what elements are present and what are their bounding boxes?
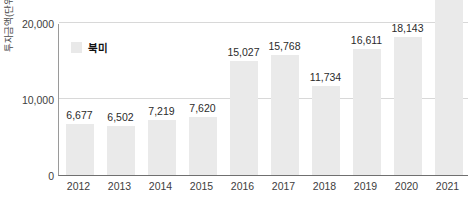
bar[interactable] — [230, 61, 258, 175]
bar[interactable] — [148, 120, 176, 175]
bar-group: 15,027 — [223, 24, 264, 175]
bar[interactable] — [435, 0, 463, 175]
bar[interactable] — [66, 124, 94, 175]
bar-value-label: 6,677 — [66, 110, 92, 121]
bar-group: 7,219 — [141, 24, 182, 175]
bar[interactable] — [189, 117, 217, 175]
bar-value-label: 16,611 — [351, 35, 382, 46]
bar[interactable] — [107, 126, 135, 175]
bar-group: 16,611 — [346, 24, 387, 175]
plot-area: 북미 6,6776,5027,2197,62015,02715,76811,73… — [58, 24, 468, 176]
bar[interactable] — [394, 37, 422, 175]
bar-group: 6,502 — [100, 24, 141, 175]
x-axis-tick-label: 2014 — [149, 180, 172, 192]
y-axis-ticks: 010,00020,000 — [4, 0, 54, 201]
bar-chart: 투자금액(단위 : 백만원) 010,00020,000 북미 6,6776,5… — [0, 0, 475, 201]
x-axis-tick-label: 2019 — [354, 180, 377, 192]
bar-group: 23,3 — [428, 24, 469, 175]
bar-value-label: 6,502 — [107, 112, 133, 123]
bar-group: 18,143 — [387, 24, 428, 175]
y-axis-tick-label: 0 — [8, 171, 54, 181]
bar-value-label: 15,768 — [268, 41, 300, 52]
bar[interactable] — [271, 55, 299, 175]
bar-value-label: 7,219 — [148, 106, 174, 117]
x-axis-tick-label: 2020 — [395, 180, 418, 192]
x-axis-tick-label: 2013 — [108, 180, 131, 192]
x-axis-tick-label: 2016 — [231, 180, 254, 192]
y-axis-tick-label: 10,000 — [8, 95, 54, 105]
x-axis-tick-label: 2021 — [436, 180, 459, 192]
bar-group: 6,677 — [59, 24, 100, 175]
bar-group: 11,734 — [305, 24, 346, 175]
x-axis-tick-label: 2017 — [272, 180, 295, 192]
x-axis-ticks: 2012201320142015201620172018201920202021 — [58, 180, 468, 196]
bar[interactable] — [312, 86, 340, 175]
x-axis-tick-label: 2018 — [313, 180, 336, 192]
bar[interactable] — [353, 49, 381, 175]
bar-value-label: 11,734 — [310, 72, 341, 83]
bar-value-label: 7,620 — [189, 103, 215, 114]
x-axis-tick-label: 2015 — [190, 180, 213, 192]
y-axis-tick-label: 20,000 — [8, 19, 54, 29]
bar-group: 7,620 — [182, 24, 223, 175]
bar-value-label: 15,027 — [227, 47, 259, 58]
x-axis-tick-label: 2012 — [67, 180, 90, 192]
bar-value-label: 18,143 — [391, 23, 423, 34]
bar-group: 15,768 — [264, 24, 305, 175]
